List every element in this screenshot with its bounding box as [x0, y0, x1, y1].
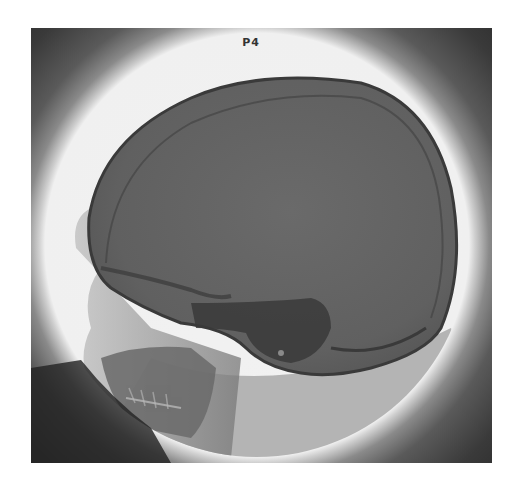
skull-radiograph	[31, 28, 492, 463]
image-label: P4	[239, 36, 263, 49]
xray-frame: P4	[31, 28, 492, 463]
